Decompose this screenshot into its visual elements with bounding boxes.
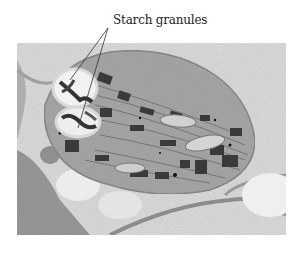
chloroplast-micrograph — [0, 0, 303, 254]
vacuole — [98, 191, 142, 219]
vacuole — [242, 173, 298, 217]
starch-granules-label: Starch granules — [113, 13, 207, 27]
micrograph-frame — [17, 43, 298, 235]
